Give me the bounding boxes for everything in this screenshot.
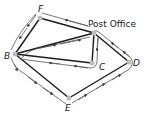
route-b-e <box>11 58 66 104</box>
edge-po-d <box>94 33 129 62</box>
route-f-b <box>11 14 36 50</box>
node-f <box>38 16 43 21</box>
node-c <box>90 61 95 66</box>
node-post-office <box>92 31 97 36</box>
route-d-po <box>94 31 131 58</box>
node-e <box>67 96 72 101</box>
graph-edges <box>15 18 129 98</box>
route-diagram: F Post Office B C D E <box>0 0 145 116</box>
edge-po-c <box>92 33 94 63</box>
node-b <box>13 52 18 57</box>
label-b: B <box>4 51 10 61</box>
edge-b-c <box>15 54 92 63</box>
label-c: C <box>99 62 106 72</box>
label-e: E <box>65 103 71 113</box>
label-post-office: Post Office <box>88 19 136 29</box>
label-d: D <box>133 58 140 68</box>
label-f: F <box>38 4 44 14</box>
node-d <box>127 60 132 65</box>
edge-b-e <box>15 54 69 98</box>
